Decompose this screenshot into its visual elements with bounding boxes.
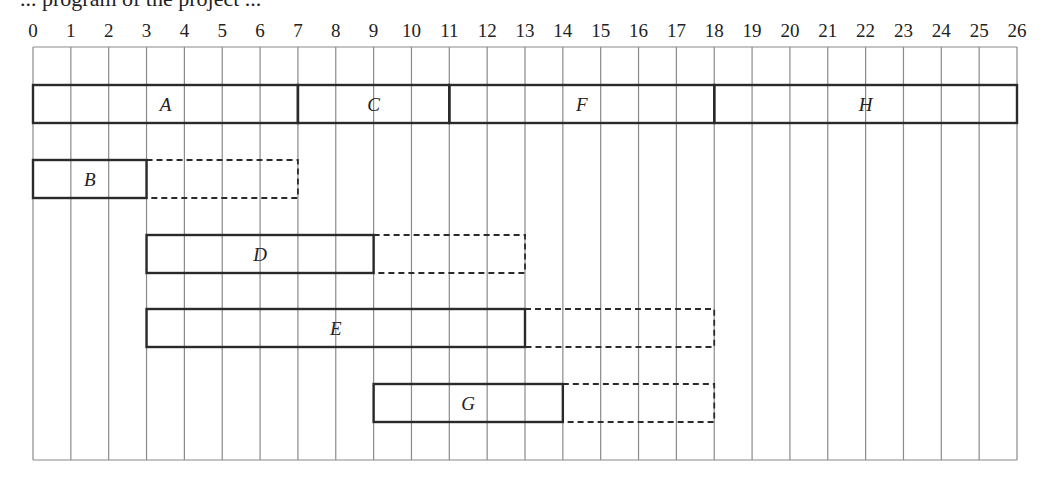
x-tick-label: 20 xyxy=(780,20,799,41)
x-tick-label: 19 xyxy=(743,20,762,41)
x-tick-label: 23 xyxy=(894,20,913,41)
x-tick-label: 2 xyxy=(104,20,114,41)
x-tick-label: 17 xyxy=(667,20,686,41)
x-tick-label: 14 xyxy=(553,20,573,41)
x-tick-label: 9 xyxy=(369,20,379,41)
x-tick-label: 13 xyxy=(516,20,535,41)
task-label: D xyxy=(252,244,267,265)
task-label: E xyxy=(329,318,342,339)
x-axis-ticks: 0123456789101112131415161718192021222324… xyxy=(28,20,1026,41)
x-tick-label: 25 xyxy=(970,20,989,41)
x-tick-label: 7 xyxy=(293,20,303,41)
float-outline xyxy=(525,309,714,347)
task-label: A xyxy=(158,94,172,115)
x-tick-label: 10 xyxy=(402,20,421,41)
x-tick-label: 26 xyxy=(1008,20,1027,41)
x-tick-label: 1 xyxy=(66,20,76,41)
task-label: C xyxy=(367,94,380,115)
x-tick-label: 6 xyxy=(255,20,265,41)
task-label: B xyxy=(84,169,96,190)
task-h: H xyxy=(714,85,1017,123)
task-d: D xyxy=(147,235,525,273)
task-c: C xyxy=(298,85,449,123)
x-tick-label: 22 xyxy=(856,20,875,41)
x-tick-label: 21 xyxy=(818,20,837,41)
x-tick-label: 11 xyxy=(440,20,458,41)
x-tick-label: 4 xyxy=(180,20,190,41)
gantt-chart: 0123456789101112131415161718192021222324… xyxy=(0,0,1051,490)
task-label: G xyxy=(461,393,475,414)
task-e: E xyxy=(147,309,715,347)
x-tick-label: 0 xyxy=(28,20,38,41)
task-b: B xyxy=(33,160,298,198)
task-label: H xyxy=(858,94,874,115)
x-tick-label: 12 xyxy=(478,20,497,41)
x-tick-label: 8 xyxy=(331,20,341,41)
x-tick-label: 15 xyxy=(591,20,610,41)
task-g: G xyxy=(374,384,715,422)
x-tick-label: 18 xyxy=(705,20,724,41)
task-label: F xyxy=(575,94,588,115)
x-tick-label: 24 xyxy=(932,20,952,41)
x-tick-label: 3 xyxy=(142,20,152,41)
x-tick-label: 5 xyxy=(217,20,227,41)
x-tick-label: 16 xyxy=(629,20,648,41)
task-f: F xyxy=(449,85,714,123)
task-a: A xyxy=(33,85,298,123)
